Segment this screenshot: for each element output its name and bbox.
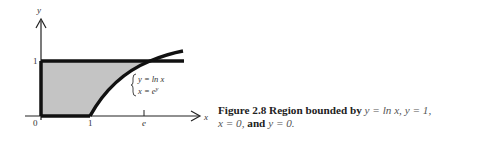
tick-label-origin: 0: [33, 118, 38, 128]
curve-label-line2-exp: y: [155, 85, 159, 92]
caption-eq2: y = 1,: [405, 104, 432, 116]
curve-label-line1: y = ln x: [137, 74, 164, 84]
caption-eq3: x = 0,: [218, 117, 245, 129]
tick-label-y-one: 1: [33, 56, 38, 66]
caption-eq1: y = ln x,: [365, 104, 402, 116]
curve-label-line2: x = ey: [137, 85, 159, 96]
x-axis-label: x: [203, 112, 208, 122]
tick-label-x-one: 1: [88, 118, 93, 128]
curve-label-brace: [131, 74, 136, 96]
curve-label-line2-base: x = e: [137, 86, 156, 96]
caption-and: and: [247, 117, 265, 129]
tick-label-e: e: [142, 118, 146, 128]
caption-figure-number: Figure 2.8: [218, 104, 266, 116]
figure-caption: Figure 2.8 Region bounded by y = ln x, y…: [218, 104, 480, 130]
caption-title: Region bounded by: [269, 104, 362, 116]
y-axis-label: y: [36, 5, 41, 15]
caption-eq4: y = 0.: [268, 117, 295, 129]
